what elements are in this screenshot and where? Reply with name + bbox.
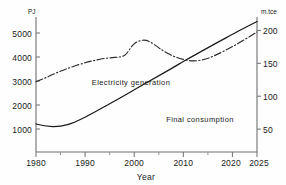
- y-tick-label-5000: 5000: [12, 29, 32, 39]
- y2-tick-label-50: 50: [263, 125, 273, 135]
- y-axis-unit-label: PJ: [28, 8, 36, 15]
- x-tick-label-2020: 2020: [221, 158, 241, 168]
- y2-axis-ticks: [257, 30, 261, 129]
- x-tick-label-2000: 2000: [124, 158, 144, 168]
- chart-svg: 5000 4000 3000 2000 1000 200 150 100 50 …: [0, 0, 286, 185]
- series-final-consumption-line: [36, 22, 257, 127]
- x-tick-label-1980: 1980: [26, 158, 46, 168]
- x-tick-label-1990: 1990: [75, 158, 95, 168]
- chart-figure: 5000 4000 3000 2000 1000 200 150 100 50 …: [0, 0, 286, 185]
- y-tick-label-4000: 4000: [12, 53, 32, 63]
- y2-tick-label-200: 200: [263, 26, 278, 36]
- y2-axis-unit-label: m.tce: [261, 8, 277, 15]
- x-axis-ticks: [36, 152, 257, 157]
- y-tick-label-3000: 3000: [12, 77, 32, 87]
- x-axis-title: Year: [137, 172, 155, 182]
- x-tick-label-2025: 2025: [249, 158, 269, 168]
- y2-tick-label-150: 150: [263, 59, 278, 69]
- series-label-electricity-generation: Electricity generation: [92, 78, 170, 87]
- x-tick-label-2010: 2010: [173, 158, 193, 168]
- series-label-final-consumption: Final consumption: [166, 115, 234, 124]
- y2-tick-label-100: 100: [263, 92, 278, 102]
- y-tick-label-1000: 1000: [12, 125, 32, 135]
- y-tick-label-2000: 2000: [12, 101, 32, 111]
